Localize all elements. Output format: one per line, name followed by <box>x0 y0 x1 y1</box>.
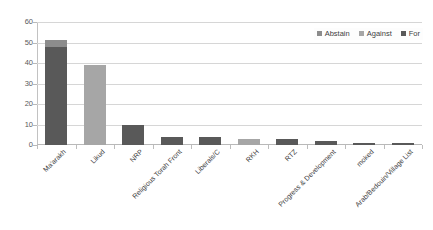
y-tick-label: 30 <box>3 80 33 88</box>
bar-slot <box>230 22 269 145</box>
x-tick-label: RTZ <box>284 148 298 162</box>
y-axis-tick-labels: 0102030405060 <box>0 22 33 145</box>
bar-slot <box>76 22 115 145</box>
bars-layer <box>37 22 422 145</box>
x-tick-label: RKH <box>244 148 259 163</box>
bar-slot <box>153 22 192 145</box>
bar-segment <box>199 137 221 145</box>
legend-label: For <box>409 30 420 38</box>
bar-slot <box>268 22 307 145</box>
bar-segment <box>315 141 337 145</box>
bar-segment <box>122 125 144 146</box>
bar-chart: 0102030405060 Ma'arakhLikudNRPReligious … <box>0 0 433 230</box>
x-tick-label: Ma'arakh <box>42 148 67 173</box>
bar[interactable] <box>161 137 183 145</box>
bar-segment <box>161 137 183 145</box>
bar-segment <box>238 139 260 145</box>
bar-segment <box>392 143 414 145</box>
x-tick-label: moked <box>355 148 375 168</box>
legend-swatch-icon <box>401 31 406 36</box>
x-tick-label: Likud <box>89 148 106 165</box>
bar-segment <box>276 139 298 145</box>
bar[interactable] <box>315 141 337 145</box>
y-tick-label: 20 <box>3 100 33 108</box>
bar[interactable] <box>45 40 67 145</box>
legend-label: Against <box>367 30 392 38</box>
bar-segment <box>353 143 375 145</box>
x-tick-label: Liberals/C <box>194 148 221 175</box>
bar[interactable] <box>199 137 221 145</box>
legend-item[interactable]: Abstain <box>317 30 350 38</box>
bar-segment <box>45 47 67 145</box>
y-tick-label: 10 <box>3 121 33 129</box>
plot-area <box>37 22 422 145</box>
x-tick-mark <box>422 145 423 149</box>
chart-legend: AbstainAgainstFor <box>314 28 423 40</box>
bar[interactable] <box>353 143 375 145</box>
legend-item[interactable]: Against <box>359 30 392 38</box>
bar-slot <box>37 22 76 145</box>
legend-swatch-icon <box>359 31 364 36</box>
bar[interactable] <box>238 139 260 145</box>
bar[interactable] <box>122 125 144 146</box>
bar[interactable] <box>276 139 298 145</box>
y-tick-label: 60 <box>3 18 33 26</box>
legend-label: Abstain <box>325 30 350 38</box>
bar[interactable] <box>392 143 414 145</box>
legend-swatch-icon <box>317 31 322 36</box>
legend-item[interactable]: For <box>401 30 420 38</box>
y-tick-label: 50 <box>3 39 33 47</box>
bar-slot <box>191 22 230 145</box>
x-tick-label: NRP <box>129 148 144 163</box>
bar-slot <box>307 22 346 145</box>
x-axis-tick-labels: Ma'arakhLikudNRPReligious Torah FrontLib… <box>37 148 422 228</box>
bar-segment <box>45 40 67 46</box>
bar-slot <box>114 22 153 145</box>
y-tick-label: 40 <box>3 59 33 67</box>
bar-slot <box>384 22 423 145</box>
bar[interactable] <box>84 65 106 145</box>
bar-segment <box>84 65 106 145</box>
bar-slot <box>345 22 384 145</box>
y-tick-label: 0 <box>3 141 33 149</box>
